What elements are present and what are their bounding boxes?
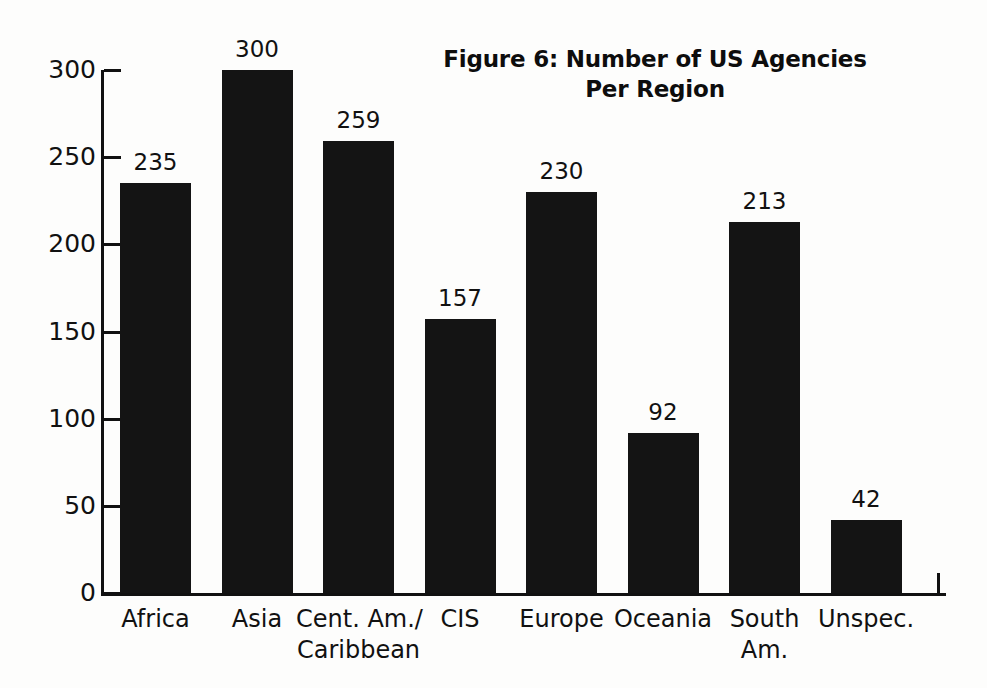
bar — [628, 433, 699, 593]
x-axis-category-label-line: Caribbean — [296, 635, 421, 666]
bar-value-label: 213 — [704, 190, 825, 213]
x-axis-category-label-line: Unspec. — [804, 604, 929, 635]
y-axis-tick-label: 300 — [48, 57, 96, 82]
bar — [222, 70, 293, 593]
bar-value-label: 300 — [197, 38, 318, 61]
bar — [120, 183, 191, 593]
y-axis-tick-label: 0 — [80, 580, 96, 605]
y-axis-tick-label: 50 — [64, 493, 96, 518]
bar — [425, 319, 496, 593]
bar-value-label: 92 — [603, 401, 724, 424]
bar-value-label: 235 — [95, 151, 216, 174]
y-axis-tick-label: 200 — [48, 231, 96, 256]
plot-area: 2353002591572309221342 — [101, 60, 946, 605]
bar-value-label: 42 — [806, 488, 927, 511]
x-axis-category-label: Unspec. — [804, 604, 929, 635]
bar-value-label: 230 — [501, 160, 622, 183]
bars-layer: 2353002591572309221342 — [101, 60, 946, 596]
y-axis-tick-label: 250 — [48, 144, 96, 169]
y-axis-tick-label: 150 — [48, 319, 96, 344]
chart-figure: Figure 6: Number of US Agencies Per Regi… — [0, 0, 987, 688]
x-axis-category-labels: AfricaAsiaCent. Am./CaribbeanCISEuropeOc… — [101, 604, 946, 688]
bar-value-label: 157 — [400, 287, 521, 310]
bar-value-label: 259 — [298, 109, 419, 132]
bar — [323, 141, 394, 593]
bar — [729, 222, 800, 593]
bar — [526, 192, 597, 593]
y-axis-tick-label: 100 — [48, 406, 96, 431]
x-axis-category-label-line: Am. — [702, 635, 827, 666]
bar — [831, 520, 902, 593]
y-axis-tick-labels: 050100150200250300 — [0, 0, 96, 688]
